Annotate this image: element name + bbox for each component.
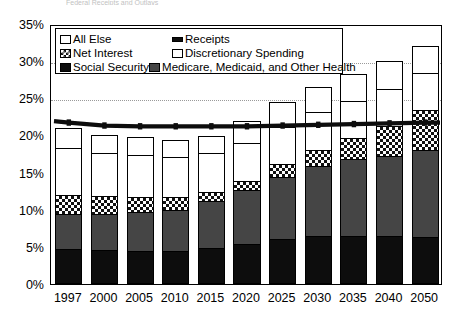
bar-segment-discretionary bbox=[55, 148, 82, 195]
legend-item-receipts: Receipts bbox=[172, 33, 342, 45]
bar-segment-health bbox=[198, 201, 225, 248]
x-tick-label: 2010 bbox=[161, 291, 189, 305]
bar-1997[interactable] bbox=[55, 128, 82, 284]
y-tick-label: 15% bbox=[0, 167, 44, 181]
legend-row: All Else Receipts bbox=[60, 32, 342, 46]
bar-segment-health bbox=[269, 177, 296, 239]
bar-segment-all-else bbox=[340, 74, 367, 101]
y-tick-label: 0% bbox=[0, 278, 44, 292]
legend-item-health: Medicare, Medicaid, and Other Health bbox=[149, 61, 356, 73]
x-tick-label: 1997 bbox=[54, 291, 82, 305]
bar-segment-social-security bbox=[340, 236, 367, 284]
bar-segment-net-interest bbox=[376, 126, 403, 156]
bar-2040[interactable] bbox=[376, 61, 403, 284]
bar-segment-health bbox=[340, 159, 367, 236]
bar-2005[interactable] bbox=[127, 137, 154, 284]
bar-segment-all-else bbox=[162, 140, 189, 157]
legend-label: All Else bbox=[73, 33, 111, 45]
bar-segment-discretionary bbox=[412, 73, 439, 110]
bar-segment-health bbox=[412, 150, 439, 238]
bar-segment-discretionary bbox=[162, 157, 189, 197]
bar-2015[interactable] bbox=[198, 136, 225, 284]
bar-segment-health bbox=[91, 214, 118, 250]
legend-item-social-security: Social Security bbox=[60, 61, 149, 73]
x-tick-label: 2030 bbox=[303, 291, 331, 305]
x-tick-label: 2035 bbox=[339, 291, 367, 305]
bar-segment-health bbox=[127, 212, 154, 251]
bar-segment-all-else bbox=[127, 137, 154, 155]
black-line-icon bbox=[172, 37, 183, 42]
legend-item-all-else: All Else bbox=[60, 33, 172, 45]
white-square-icon bbox=[172, 49, 183, 58]
bar-segment-net-interest bbox=[269, 164, 296, 177]
bar-segment-health bbox=[376, 156, 403, 237]
bar-segment-net-interest bbox=[55, 195, 82, 214]
x-tick-label: 2050 bbox=[410, 291, 438, 305]
legend-label: Social Security bbox=[73, 61, 149, 73]
bar-segment-all-else bbox=[91, 135, 118, 152]
x-tick-label: 2040 bbox=[375, 291, 403, 305]
y-tick-label: 35% bbox=[0, 18, 44, 32]
legend-label: Medicare, Medicaid, and Other Health bbox=[162, 61, 356, 73]
x-tick-label: 2015 bbox=[196, 291, 224, 305]
bar-segment-net-interest bbox=[162, 197, 189, 210]
chart-legend: All Else Receipts Net Interest Discretio… bbox=[55, 28, 343, 74]
bar-segment-discretionary bbox=[233, 143, 260, 181]
y-tick-label: 30% bbox=[0, 55, 44, 69]
legend-label: Discretionary Spending bbox=[185, 47, 304, 59]
x-tick-label: 2000 bbox=[90, 291, 118, 305]
bar-segment-social-security bbox=[412, 237, 439, 284]
bar-segment-discretionary bbox=[198, 153, 225, 192]
bar-segment-health bbox=[233, 190, 260, 243]
bar-segment-net-interest bbox=[412, 110, 439, 149]
bar-segment-net-interest bbox=[198, 192, 225, 201]
bar-segment-discretionary bbox=[127, 155, 154, 197]
bar-2050[interactable] bbox=[412, 46, 439, 284]
bar-segment-social-security bbox=[269, 239, 296, 284]
bar-segment-all-else bbox=[233, 121, 260, 143]
bar-segment-discretionary bbox=[340, 101, 367, 138]
legend-item-net-interest: Net Interest bbox=[60, 47, 172, 59]
bar-segment-discretionary bbox=[91, 153, 118, 197]
chart-container: Federal Receipts and Outlays 35% 30% 25%… bbox=[0, 0, 450, 323]
legend-label: Net Interest bbox=[73, 47, 132, 59]
bar-segment-social-security bbox=[233, 244, 260, 284]
bar-segment-all-else bbox=[305, 87, 332, 112]
bar-segment-health bbox=[162, 210, 189, 251]
bar-2010[interactable] bbox=[162, 140, 189, 284]
bar-segment-social-security bbox=[376, 236, 403, 284]
bar-segment-health bbox=[55, 214, 82, 249]
bar-segment-net-interest bbox=[127, 197, 154, 212]
bar-segment-social-security bbox=[55, 249, 82, 284]
x-tick-label: 2020 bbox=[232, 291, 260, 305]
bar-segment-all-else bbox=[376, 61, 403, 88]
bar-segment-net-interest bbox=[305, 150, 332, 166]
white-square-icon bbox=[60, 35, 71, 44]
bar-segment-all-else bbox=[412, 46, 439, 73]
black-square-icon bbox=[60, 63, 71, 72]
y-tick-label: 20% bbox=[0, 129, 44, 143]
bar-2025[interactable] bbox=[269, 102, 296, 284]
bar-segment-net-interest bbox=[340, 138, 367, 160]
bar-2000[interactable] bbox=[91, 135, 118, 284]
x-tick-label: 2005 bbox=[125, 291, 153, 305]
bar-segment-social-security bbox=[198, 248, 225, 284]
y-tick-label: 10% bbox=[0, 204, 44, 218]
bar-segment-social-security bbox=[127, 251, 154, 284]
bar-segment-net-interest bbox=[233, 181, 260, 191]
bar-2030[interactable] bbox=[305, 87, 332, 284]
bar-segment-discretionary bbox=[305, 112, 332, 149]
legend-row: Social Security Medicare, Medicaid, and … bbox=[60, 60, 342, 74]
bar-segment-health bbox=[305, 166, 332, 237]
bar-segment-all-else bbox=[269, 102, 296, 127]
legend-item-discretionary: Discretionary Spending bbox=[172, 47, 342, 59]
bar-segment-social-security bbox=[305, 236, 332, 284]
y-tick-label: 5% bbox=[0, 241, 44, 255]
bar-2035[interactable] bbox=[340, 74, 367, 284]
y-tick-label: 25% bbox=[0, 92, 44, 106]
x-tick-label: 2025 bbox=[268, 291, 296, 305]
bar-segment-social-security bbox=[91, 250, 118, 284]
bar-2020[interactable] bbox=[233, 121, 260, 284]
bar-segment-discretionary bbox=[269, 127, 296, 164]
bar-segment-all-else bbox=[55, 128, 82, 148]
